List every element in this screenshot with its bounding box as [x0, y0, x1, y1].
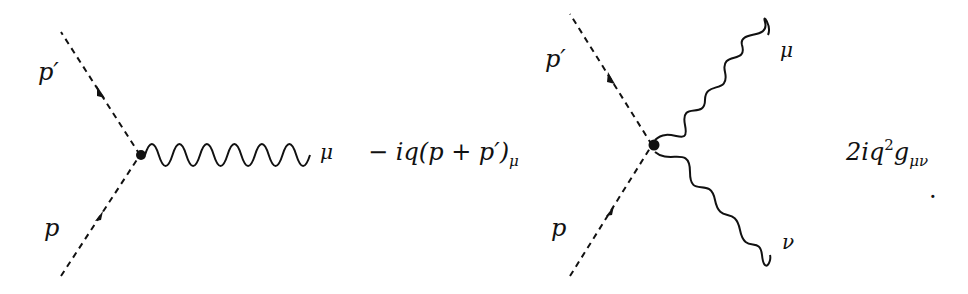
diagram-2 — [570, 14, 770, 276]
diagram-1 — [61, 32, 310, 276]
vertex-factor-1-sub: μ — [509, 152, 519, 170]
trailing-period: . — [929, 176, 937, 204]
vertex-factor-2-sub: μν — [909, 152, 928, 170]
vertex-factor-1: − iq(p + p′)μ — [368, 138, 519, 166]
label-mu: μ — [320, 140, 333, 164]
label-p-prime-2: p′ — [545, 45, 566, 73]
vertex-factor-2-sup: 2 — [884, 136, 894, 154]
photon-line — [145, 144, 310, 166]
vertex-dot — [136, 150, 146, 160]
label-p: p — [44, 214, 59, 242]
arrow-icon — [97, 86, 105, 98]
vertex-dot — [649, 140, 660, 151]
label-mu-2: μ — [780, 38, 793, 62]
label-p-2: p — [551, 214, 566, 242]
photon-line-mu — [655, 19, 769, 140]
label-p-prime: p′ — [38, 58, 59, 86]
arrow-icon — [95, 211, 103, 221]
photon-line-nu — [655, 152, 770, 266]
arrow-icon — [607, 72, 615, 84]
vertex-factor-2: 2iq2gμν — [846, 138, 928, 166]
vertex-factor-2-coef: 2iq — [846, 138, 884, 166]
label-nu-2: ν — [782, 230, 794, 254]
vertex-factor-1-main: − iq(p + p′) — [368, 138, 509, 166]
vertex-factor-2-metric: g — [894, 138, 909, 166]
